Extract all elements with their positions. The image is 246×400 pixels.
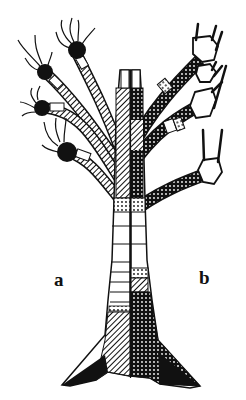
label-b: b <box>199 268 210 287</box>
label-a: a <box>54 270 64 289</box>
left-branches <box>42 50 120 200</box>
tree-diagram <box>0 0 246 400</box>
